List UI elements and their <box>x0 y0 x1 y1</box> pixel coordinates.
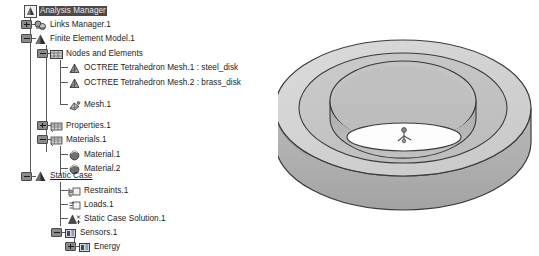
expander-materials[interactable] <box>37 135 48 144</box>
static-case-icon <box>34 170 47 183</box>
tree-node-links-manager[interactable]: Links Manager.1 <box>34 18 112 32</box>
expander-static-case[interactable] <box>21 172 32 181</box>
expander-finite-element-model[interactable] <box>21 34 32 43</box>
tree-node-label: Sensors.1 <box>79 228 118 238</box>
tree-node-finite-element-model[interactable]: Finite Element Model.1 <box>34 32 136 46</box>
tree-node-label: Mesh.1 <box>83 100 112 110</box>
tree-connector <box>60 218 68 219</box>
tree-node-label: OCTREE Tetrahedron Mesh.2 : brass_disk <box>83 78 242 88</box>
tree-node-label: Links Manager.1 <box>49 20 112 30</box>
octree-mesh-icon <box>68 62 81 75</box>
tree-connector <box>60 104 68 105</box>
tree-node-restraints[interactable]: Restraints.1 <box>68 184 129 198</box>
expander-nodes-and-elements[interactable] <box>37 49 48 58</box>
tree-connector <box>60 82 68 83</box>
specification-tree[interactable]: Analysis Manager Links Manager.1 Finite … <box>0 0 278 256</box>
tree-node-label: Materials.1 <box>65 135 108 145</box>
tree-node-label: Finite Element Model.1 <box>49 34 136 44</box>
nodes-elements-icon <box>50 48 63 61</box>
tree-node-sensors[interactable]: Sensors.1 <box>64 226 118 240</box>
tree-connector <box>30 44 31 179</box>
tree-node-material-1[interactable]: Material.1 <box>68 148 121 162</box>
tree-node-label: Static Case Solution.1 <box>83 214 167 224</box>
tree-connector <box>60 67 68 68</box>
properties-icon <box>50 120 63 133</box>
tree-node-label: Static Case <box>49 171 93 181</box>
tree-node-label: Restraints.1 <box>83 186 129 196</box>
finite-element-model-icon <box>34 33 47 46</box>
tree-node-label: Loads.1 <box>83 200 115 210</box>
analysis-manager-icon <box>24 5 37 18</box>
tree-node-label: Analysis Manager <box>39 6 107 16</box>
expander-energy[interactable] <box>65 242 76 251</box>
expander-properties[interactable] <box>37 121 48 130</box>
tree-connector <box>60 190 68 191</box>
tree-node-analysis-manager[interactable]: Analysis Manager <box>24 4 107 18</box>
tree-node-nodes-and-elements[interactable]: Nodes and Elements <box>50 47 144 61</box>
tree-node-energy[interactable]: Energy <box>78 240 121 254</box>
sensors-icon <box>64 227 77 240</box>
materials-icon <box>50 134 63 147</box>
expander-sensors[interactable] <box>51 228 62 237</box>
tree-node-octree-mesh-2[interactable]: OCTREE Tetrahedron Mesh.2 : brass_disk <box>68 76 242 90</box>
tree-node-label: Energy <box>93 242 121 252</box>
material-sphere-icon <box>68 149 81 162</box>
tree-node-materials[interactable]: Materials.1 <box>50 133 108 147</box>
tree-node-loads[interactable]: Loads.1 <box>68 198 115 212</box>
tree-node-label: Nodes and Elements <box>65 49 144 59</box>
tree-node-octree-mesh-1[interactable]: OCTREE Tetrahedron Mesh.1 : steel_disk <box>68 61 239 75</box>
tree-node-static-case[interactable]: Static Case <box>34 169 93 183</box>
restraints-icon <box>68 185 81 198</box>
static-case-solution-icon <box>68 213 81 226</box>
tree-node-mesh-1[interactable]: Mesh.1 <box>68 98 112 112</box>
tree-node-static-case-solution[interactable]: Static Case Solution.1 <box>68 212 167 226</box>
tree-connector <box>60 204 68 205</box>
annular-disk-model <box>278 0 539 256</box>
tree-node-label: Material.1 <box>83 150 121 160</box>
octree-mesh-icon <box>68 77 81 90</box>
mesh-icon <box>68 99 81 112</box>
tree-node-properties[interactable]: Properties.1 <box>50 119 112 133</box>
tree-node-label: OCTREE Tetrahedron Mesh.1 : steel_disk <box>83 63 239 73</box>
energy-sensor-icon <box>78 241 91 254</box>
links-manager-icon <box>34 19 47 32</box>
3d-viewport[interactable] <box>278 0 539 256</box>
tree-connector <box>60 154 68 155</box>
loads-icon <box>68 199 81 212</box>
tree-node-label: Properties.1 <box>65 121 112 131</box>
expander-links-manager[interactable] <box>21 20 32 29</box>
